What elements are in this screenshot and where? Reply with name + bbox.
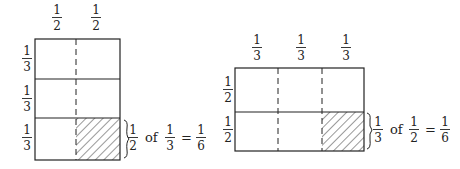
svg-text:2: 2 (92, 19, 100, 33)
left-row-label-3: 1 3 (22, 123, 32, 153)
svg-text:1: 1 (23, 84, 31, 98)
svg-text:1: 1 (53, 3, 61, 17)
right-eq-fraction-a: 1 3 (373, 115, 383, 145)
left-col-label-1: 1 2 (52, 3, 62, 33)
left-col-label-2: 1 2 (91, 3, 101, 33)
right-col-label-1: 1 3 (252, 33, 262, 63)
right-row-label-1: 1 2 (223, 75, 233, 105)
left-row-label-1: 1 3 (22, 44, 32, 74)
left-diagram: 1 2 1 2 1 3 1 3 1 3 1 (22, 3, 206, 160)
svg-text:2: 2 (129, 139, 137, 153)
svg-text:1: 1 (374, 115, 382, 129)
svg-text:6: 6 (197, 139, 205, 153)
svg-text:1: 1 (166, 123, 174, 137)
svg-text:1: 1 (342, 33, 350, 47)
right-col-label-3: 1 3 (341, 33, 351, 63)
right-eq-of: of (390, 122, 404, 137)
left-shaded-cell (76, 118, 120, 160)
right-shaded-cell (322, 112, 364, 151)
svg-text:1: 1 (253, 33, 261, 47)
svg-text:3: 3 (253, 49, 261, 63)
right-eq-fraction-b: 1 2 (409, 115, 419, 145)
svg-text:3: 3 (374, 131, 382, 145)
svg-text:1: 1 (441, 115, 449, 129)
right-eq-result: 1 6 (440, 115, 450, 145)
svg-text:3: 3 (23, 139, 31, 153)
svg-text:3: 3 (23, 100, 31, 114)
svg-text:1: 1 (410, 115, 418, 129)
svg-text:1: 1 (129, 123, 137, 137)
right-diagram: 1 3 1 3 1 3 1 2 1 2 1 (223, 33, 450, 151)
svg-text:3: 3 (166, 139, 174, 153)
right-equation: 1 3 of 1 2 = 1 6 (373, 115, 450, 145)
svg-text:1: 1 (224, 115, 232, 129)
right-brace (367, 113, 372, 149)
left-equation: 1 2 of 1 3 = 1 6 (128, 123, 206, 153)
svg-text:2: 2 (224, 131, 232, 145)
svg-text:1: 1 (23, 123, 31, 137)
svg-text:1: 1 (92, 3, 100, 17)
svg-text:1: 1 (224, 75, 232, 89)
svg-text:3: 3 (23, 60, 31, 74)
right-eq-equals: = (425, 122, 436, 137)
fraction-diagrams: 1 2 1 2 1 3 1 3 1 3 1 (0, 0, 460, 169)
svg-text:2: 2 (224, 91, 232, 105)
left-eq-equals: = (181, 130, 192, 145)
svg-text:3: 3 (342, 49, 350, 63)
left-eq-fraction-a: 1 2 (128, 123, 138, 153)
left-row-label-2: 1 3 (22, 84, 32, 114)
svg-text:1: 1 (197, 123, 205, 137)
svg-text:1: 1 (297, 33, 305, 47)
svg-text:1: 1 (23, 44, 31, 58)
right-row-label-2: 1 2 (223, 115, 233, 145)
svg-text:2: 2 (53, 19, 61, 33)
svg-text:6: 6 (441, 131, 449, 145)
svg-text:3: 3 (297, 49, 305, 63)
right-col-label-2: 1 3 (296, 33, 306, 63)
left-eq-of: of (145, 130, 159, 145)
left-eq-fraction-b: 1 3 (165, 123, 175, 153)
svg-text:2: 2 (410, 131, 418, 145)
left-eq-result: 1 6 (196, 123, 206, 153)
